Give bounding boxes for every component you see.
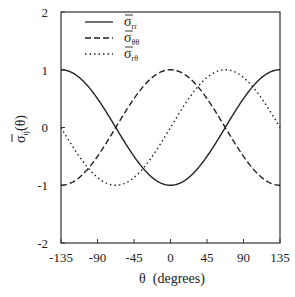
x-tick-label: 135 — [270, 250, 290, 265]
y-tick-label: 1 — [42, 63, 49, 78]
series-line-θθ — [61, 70, 280, 186]
x-tick-label: -135 — [49, 250, 73, 265]
y-tick-label: 0 — [42, 120, 49, 135]
series-line-rθ — [61, 70, 280, 186]
x-tick-label: 90 — [237, 250, 250, 265]
legend-item-tt: σθθ — [85, 30, 139, 47]
x-tick-label: -90 — [89, 250, 106, 265]
legend-item-rt: σrθ — [85, 46, 138, 63]
chart: 2 1 0 -1 -2 -135 -90 -45 0 45 90 135 θ (… — [0, 0, 295, 297]
series-line-rr — [61, 70, 280, 186]
legend-item-rr: σrr — [85, 14, 137, 31]
y-tick-label: -1 — [37, 178, 48, 193]
y-axis-title: σij(θ) — [12, 115, 30, 143]
y-tick-label: -2 — [37, 236, 48, 251]
legend-sub: rr — [132, 22, 138, 31]
svg-text:σrθ: σrθ — [124, 46, 138, 63]
svg-text:σij(θ): σij(θ) — [13, 115, 30, 143]
plot-frame — [61, 12, 280, 243]
svg-text:σrr: σrr — [124, 14, 137, 31]
legend: σrr σθθ σrθ — [85, 14, 139, 63]
y-tick-label: 2 — [42, 5, 49, 20]
svg-text:σθθ: σθθ — [124, 30, 139, 47]
x-tick-label: -45 — [125, 250, 142, 265]
legend-sub: θθ — [132, 38, 140, 47]
y-title-arg: (θ) — [13, 115, 29, 131]
legend-sub: rθ — [132, 54, 139, 63]
x-axis-title: θ (degrees) — [139, 271, 205, 287]
x-tick-label: 45 — [201, 250, 214, 265]
plot-curves — [61, 70, 280, 186]
axis-ticks — [61, 12, 280, 243]
x-tick-label: 0 — [167, 250, 174, 265]
